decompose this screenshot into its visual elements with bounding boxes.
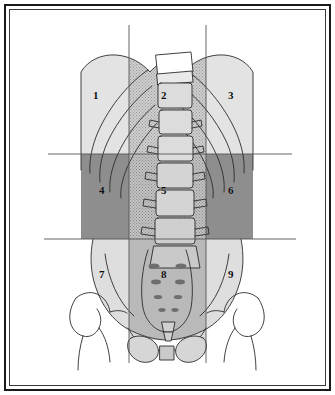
anatomy-svg [10,10,325,385]
region-label-5: 5 [161,185,167,196]
region-label-9: 9 [228,269,234,280]
region-label-7: 7 [99,269,105,280]
figure-root: 1 2 3 4 5 6 7 8 9 [0,0,335,395]
region-4-fill [10,154,129,239]
region-1-fill [10,10,129,154]
region-label-1: 1 [93,90,99,101]
diagram-canvas [10,10,325,385]
region-6-fill [206,154,325,239]
region-label-8: 8 [161,269,167,280]
region-label-3: 3 [228,90,234,101]
region-label-4: 4 [99,185,105,196]
region-label-2: 2 [161,90,167,101]
region-label-6: 6 [228,185,234,196]
region-3-fill [206,10,325,154]
